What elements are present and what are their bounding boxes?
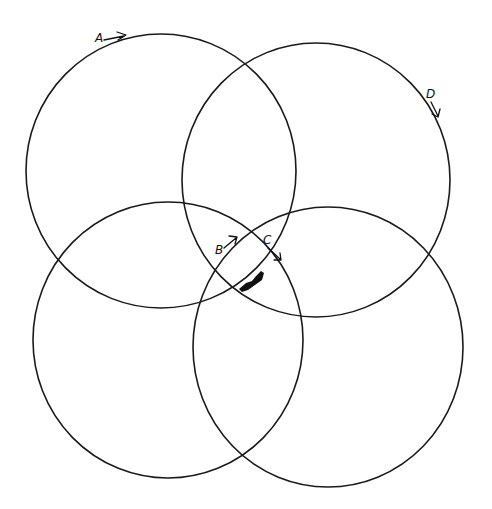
arrow-d-icon — [431, 102, 440, 117]
circle-top-left — [26, 34, 296, 308]
label-a: A — [94, 31, 103, 45]
arrow-c-icon — [268, 248, 281, 260]
circle-bottom-right — [193, 207, 463, 487]
label-c-group: C — [263, 233, 281, 260]
label-c: C — [263, 233, 272, 247]
four-circle-diagram: A D B C — [0, 0, 492, 509]
circle-top-right — [182, 43, 450, 317]
ink-blot-mark — [239, 271, 264, 292]
label-a-group: A — [94, 31, 126, 45]
label-b: B — [215, 243, 223, 257]
label-d: D — [426, 87, 435, 101]
